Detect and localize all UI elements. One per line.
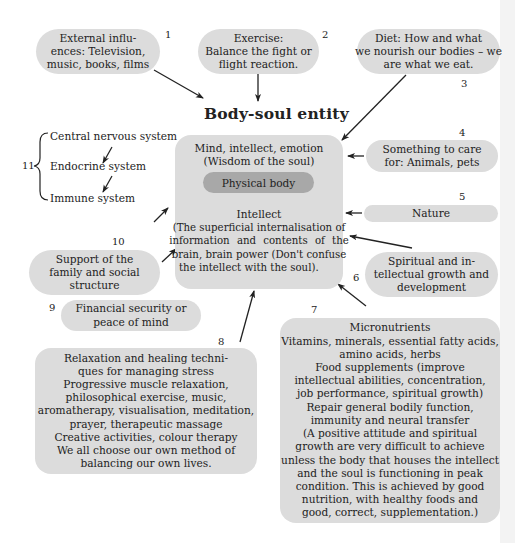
node-text: Balance the fight or	[205, 45, 312, 58]
node-micronutrients: Micronutrients Vitamins, minerals, essen…	[280, 318, 500, 523]
node-text: for: Animals, pets	[385, 156, 480, 169]
node-number-8: 8	[218, 336, 224, 347]
intellect-text: information and contents of the	[169, 234, 348, 247]
intellect-text: brain, brain power (Don't confuse	[172, 248, 347, 261]
node-text: (A positive attitude and spiritual	[303, 427, 477, 440]
node-text: family and social	[49, 266, 140, 279]
node-exercise: Exercise: Balance the fight or flight re…	[198, 29, 319, 74]
center-text: Mind, intellect, emotion	[195, 142, 324, 155]
node-number-5: 5	[459, 191, 465, 202]
node-text: Progressive muscle relaxation,	[63, 378, 228, 391]
node-number-7: 7	[311, 304, 317, 315]
arrow-relaxation	[240, 291, 254, 342]
node-family-support: Support of the family and social structu…	[29, 250, 160, 295]
body-soul-diagram: External influ- ences: Television, music…	[0, 0, 515, 543]
arrow-external-influences	[154, 70, 203, 98]
node-number-10: 10	[112, 236, 125, 247]
node-text: Food supplements (improve	[315, 361, 464, 374]
node-text: intellectual abilities, concentration,	[294, 374, 485, 387]
arrow-micronutrients	[338, 284, 366, 306]
intellect-block: Intellect (The superficial internalisati…	[177, 208, 341, 278]
node-text: job performance, spiritual growth)	[297, 387, 483, 400]
node-text: immunity and neural transfer	[311, 414, 470, 427]
node-text: Financial security or	[75, 302, 186, 315]
node-text: Relaxation and healing techni-	[64, 352, 228, 365]
node-text: music, books, films	[47, 58, 149, 71]
intellect-text: the intellect with the soul).	[177, 261, 319, 274]
node-number-2: 2	[322, 29, 328, 40]
node-nature: Nature	[364, 205, 498, 222]
intellect-heading: Intellect	[237, 208, 282, 221]
node-text: balancing our own lives.	[80, 457, 211, 470]
node-text: tellectual growth and	[374, 268, 489, 281]
arrow-spiritual	[350, 236, 412, 248]
node-text: good, correct, supplementation.)	[302, 506, 478, 519]
node-text: Support of the	[56, 253, 134, 266]
arrow-endocrine-immune	[103, 176, 112, 192]
node-text: are what we eat.	[384, 58, 474, 71]
physical-body-pill: Physical body	[203, 172, 314, 193]
arrow-systems	[154, 208, 168, 222]
node-number-6: 6	[353, 272, 359, 283]
center-text: (Wisdom of the soul)	[204, 155, 315, 168]
node-care-animals: Something to care for: Animals, pets	[366, 140, 498, 172]
node-text: flight reaction.	[219, 58, 298, 71]
node-text: development	[397, 281, 466, 294]
node-text: amino acids, herbs	[339, 348, 440, 361]
node-text: ences: Television,	[51, 45, 146, 58]
node-text: condition. This is achieved by good	[296, 480, 485, 493]
brace-icon	[34, 133, 48, 200]
node-text: aromatherapy, visualisation, meditation,	[38, 404, 254, 417]
node-text: structure	[70, 279, 120, 292]
node-text: Repair general bodily function,	[306, 401, 473, 414]
node-text: We all choose our own method of	[57, 444, 235, 457]
node-number-11: 11	[22, 160, 35, 171]
node-external-influences: External influ- ences: Television, music…	[36, 29, 160, 74]
node-number-9: 9	[49, 302, 55, 313]
node-spiritual-growth: Spiritual and in- tellectual growth and …	[365, 252, 498, 297]
arrow-diet	[342, 75, 406, 140]
node-text: Diet: How and what	[375, 32, 482, 45]
node-text: External influ-	[60, 32, 137, 45]
node-financial-security: Financial security or peace of mind	[61, 300, 201, 331]
node-text: unless the body that houses the intellec…	[281, 454, 499, 467]
node-relaxation: Relaxation and healing techni- ques for …	[35, 348, 257, 474]
node-text: we nourish our bodies – we	[355, 45, 502, 58]
node-text: Micronutrients	[350, 321, 431, 334]
node-text: philosophical exercise, music,	[66, 391, 227, 404]
node-diet: Diet: How and what we nourish our bodies…	[357, 29, 500, 74]
node-text: Vitamins, minerals, essential fatty acid…	[281, 335, 499, 348]
system-immune: Immune system	[50, 192, 135, 204]
node-text: peace of mind	[93, 316, 169, 329]
node-text: Exercise:	[234, 32, 284, 45]
node-text: Something to care	[383, 143, 482, 156]
node-text: prayer, therapeutic massage	[69, 418, 222, 431]
node-text: Nature	[412, 207, 450, 220]
node-text: Creative activities, colour therapy	[54, 431, 237, 444]
node-text: and the soul is functioning in peak	[297, 467, 483, 480]
intellect-text: (The superficial internalisation of	[173, 221, 346, 234]
node-text: nutrition, with healthy foods and	[302, 493, 478, 506]
node-text: growth are very difficult to achieve	[295, 440, 484, 453]
node-number-1: 1	[165, 29, 171, 40]
node-number-3: 3	[461, 78, 467, 89]
node-number-4: 4	[459, 127, 465, 138]
node-text: Spiritual and in-	[388, 255, 475, 268]
diagram-title: Body-soul entity	[204, 104, 349, 123]
system-central-nervous: Central nervous system	[50, 130, 177, 142]
node-text: ques for managing stress	[78, 365, 214, 378]
system-endocrine: Endocrine system	[50, 160, 146, 172]
